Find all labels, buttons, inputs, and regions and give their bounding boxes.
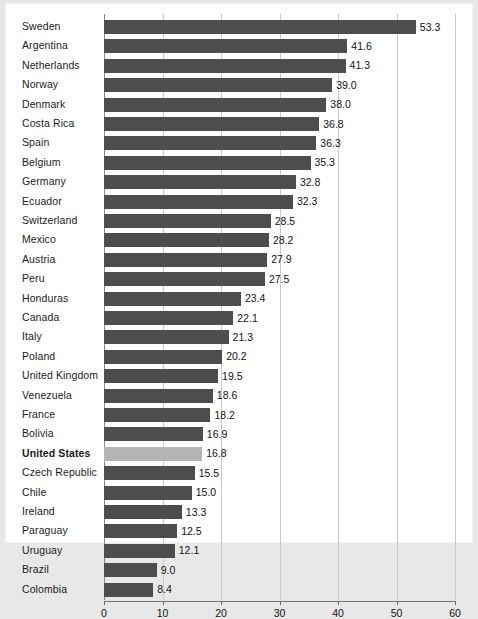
bar-value-label: 23.4 xyxy=(245,292,265,304)
category-label: Honduras xyxy=(22,292,68,304)
category-label: United Kingdom xyxy=(22,369,98,381)
bar-row: Paraguay12.5 xyxy=(6,522,472,541)
bar-row: France18.2 xyxy=(6,406,472,425)
category-label: Spain xyxy=(22,136,49,148)
category-label: Argentina xyxy=(22,39,68,51)
x-tick-mark xyxy=(455,601,456,605)
bar-row: United Kingdom19.5 xyxy=(6,367,472,386)
category-label: Bolivia xyxy=(22,427,54,439)
bar-value-label: 8.4 xyxy=(157,583,172,595)
bar-row: Argentina41.6 xyxy=(6,37,472,56)
bar xyxy=(104,524,177,538)
bar-value-label: 28.2 xyxy=(273,234,293,246)
category-label: Costa Rica xyxy=(22,117,74,129)
bar xyxy=(104,427,203,441)
bar-row: Mexico28.2 xyxy=(6,231,472,250)
bar xyxy=(104,20,416,34)
category-label: Paraguay xyxy=(22,524,68,536)
bar xyxy=(104,136,316,150)
bar-row: Czech Republic15.5 xyxy=(6,464,472,483)
bar-row: Chile15.0 xyxy=(6,484,472,503)
bar-value-label: 21.3 xyxy=(233,331,253,343)
bar-value-label: 9.0 xyxy=(161,564,176,576)
bar-chart-figure: Sweden53.3Argentina41.6Netherlands41.3No… xyxy=(6,4,472,542)
bar xyxy=(104,214,271,228)
bar-value-label: 12.1 xyxy=(179,544,199,556)
x-tick-label: 60 xyxy=(449,607,461,619)
bar xyxy=(104,544,175,558)
bar xyxy=(104,175,296,189)
bar xyxy=(104,253,267,267)
bar-value-label: 19.5 xyxy=(222,370,242,382)
bar-row: Italy21.3 xyxy=(6,328,472,347)
bar-row: Canada22.1 xyxy=(6,309,472,328)
plot-area: Sweden53.3Argentina41.6Netherlands41.3No… xyxy=(6,4,472,542)
bar xyxy=(104,389,213,403)
category-label: Ireland xyxy=(22,505,55,517)
bar-value-label: 18.6 xyxy=(217,389,237,401)
bar-row: United States16.8 xyxy=(6,445,472,464)
bar-value-label: 28.5 xyxy=(275,215,295,227)
category-label: Venezuela xyxy=(22,389,72,401)
bar-value-label: 15.0 xyxy=(196,486,216,498)
bar-row: Austria27.9 xyxy=(6,251,472,270)
bar xyxy=(104,330,229,344)
bar-row: Venezuela18.6 xyxy=(6,387,472,406)
bar-row: Switzerland28.5 xyxy=(6,212,472,231)
category-label: France xyxy=(22,408,55,420)
bar xyxy=(104,408,210,422)
category-label: Austria xyxy=(22,253,55,265)
bar-value-label: 20.2 xyxy=(226,350,246,362)
x-tick-mark xyxy=(397,601,398,605)
category-label: Belgium xyxy=(22,156,61,168)
bar-value-label: 41.3 xyxy=(350,59,370,71)
x-tick-label: 10 xyxy=(157,607,169,619)
category-label: Canada xyxy=(22,311,59,323)
bar xyxy=(104,505,182,519)
category-label: Denmark xyxy=(22,98,65,110)
bar-value-label: 16.9 xyxy=(207,428,227,440)
category-label: Peru xyxy=(22,272,45,284)
bar xyxy=(104,583,153,597)
category-label: Mexico xyxy=(22,233,56,245)
bar xyxy=(104,311,233,325)
bar-row: Peru27.5 xyxy=(6,270,472,289)
bar-value-label: 15.5 xyxy=(199,467,219,479)
x-tick-label: 0 xyxy=(101,607,107,619)
x-tick-mark xyxy=(338,601,339,605)
bar-row: Norway39.0 xyxy=(6,76,472,95)
bar-row: Bolivia16.9 xyxy=(6,425,472,444)
bar-row: Ireland13.3 xyxy=(6,503,472,522)
bar xyxy=(104,369,218,383)
x-tick-mark xyxy=(221,601,222,605)
bar-value-label: 22.1 xyxy=(237,312,257,324)
category-label: Netherlands xyxy=(22,59,80,71)
bar-highlighted xyxy=(104,447,202,461)
bar xyxy=(104,233,269,247)
category-label: Ecuador xyxy=(22,195,62,207)
x-tick-label: 40 xyxy=(332,607,344,619)
bar-value-label: 32.8 xyxy=(300,176,320,188)
bar-value-label: 36.3 xyxy=(320,137,340,149)
bar-row: Costa Rica36.8 xyxy=(6,115,472,134)
bar xyxy=(104,78,332,92)
bar-row: Spain36.3 xyxy=(6,134,472,153)
bar xyxy=(104,350,222,364)
bar-row: Belgium35.3 xyxy=(6,154,472,173)
bar-value-label: 38.0 xyxy=(330,98,350,110)
bar xyxy=(104,98,326,112)
bar xyxy=(104,59,346,73)
category-label: Chile xyxy=(22,486,46,498)
x-tick-mark xyxy=(104,601,105,605)
category-label: Sweden xyxy=(22,20,61,32)
bar xyxy=(104,272,265,286)
category-label: Poland xyxy=(22,350,55,362)
bar-row: Honduras23.4 xyxy=(6,290,472,309)
bar-value-label: 16.8 xyxy=(206,447,226,459)
x-tick-mark xyxy=(163,601,164,605)
bar xyxy=(104,156,311,170)
x-tick-label: 30 xyxy=(274,607,286,619)
bar xyxy=(104,39,347,53)
x-tick-label: 20 xyxy=(215,607,227,619)
bar xyxy=(104,117,319,131)
